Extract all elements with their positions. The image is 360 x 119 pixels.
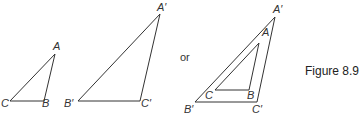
or-connector-text: or — [180, 52, 190, 63]
label-large-b-prime: B′ — [64, 98, 73, 109]
label-small-a: A — [53, 41, 60, 52]
label-overlay-c-prime: C′ — [252, 104, 262, 115]
label-overlay-a: A — [262, 27, 269, 38]
label-large-c-prime: C′ — [141, 98, 151, 109]
large-triangle-a-prime-b-prime-c-prime — [78, 14, 160, 101]
small-triangle-abc — [10, 54, 55, 101]
label-small-b: B — [42, 98, 49, 109]
label-small-c: C — [1, 98, 9, 109]
label-overlay-b-prime: B′ — [184, 104, 193, 115]
label-overlay-a-prime: A′ — [273, 4, 282, 15]
label-large-a-prime: A′ — [157, 2, 166, 13]
figure-caption: Figure 8.9 — [305, 65, 359, 77]
label-overlay-b: B — [247, 90, 254, 101]
label-overlay-c: C — [205, 90, 213, 101]
overlay-inner-triangle — [215, 43, 259, 90]
similar-triangles-figure: A C B A′ B′ C′ or A′ A C B B′ C′ Figure … — [0, 0, 360, 119]
